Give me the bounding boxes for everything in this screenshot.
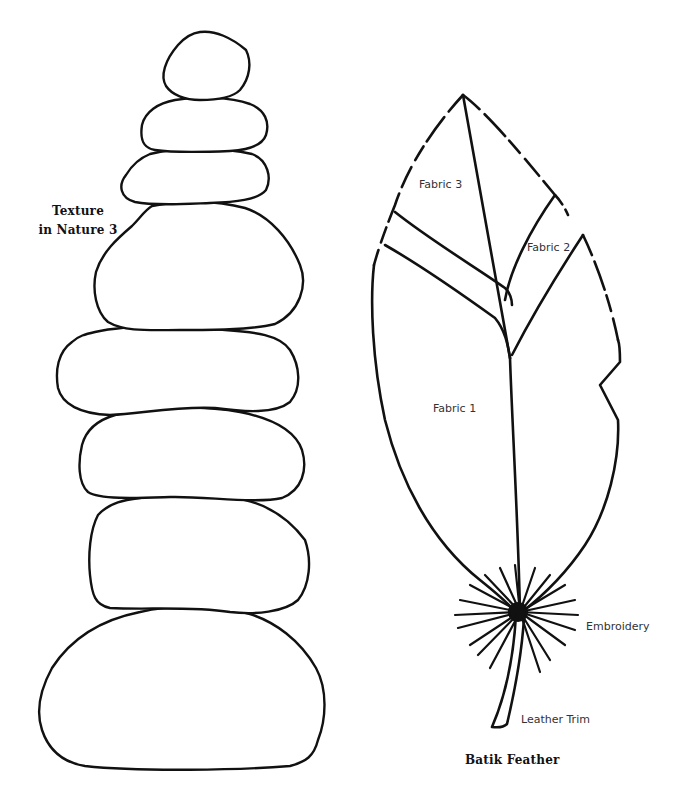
- feather-outline-right: [522, 340, 620, 612]
- feather-title: Batik Feather: [465, 751, 565, 770]
- stones-title-line-2: in Nature 3: [28, 221, 128, 240]
- label-fabric-1: Fabric 1: [433, 402, 476, 415]
- fabric-3-divider-upper: [395, 212, 512, 305]
- feather-outline-right-upper: [583, 235, 618, 340]
- batik-feather-drawing: [0, 0, 680, 811]
- label-leather-trim: Leather Trim: [521, 713, 590, 726]
- label-embroidery: Embroidery: [586, 620, 650, 633]
- stones-title-line-1: Texture: [28, 202, 128, 221]
- leather-trim-quill: [492, 615, 524, 727]
- fabric-3-divider-lower: [385, 245, 510, 358]
- pattern-sheet: Texture in Nature 3 Batik Feather Fabric…: [0, 0, 680, 811]
- label-fabric-3: Fabric 3: [419, 178, 462, 191]
- label-fabric-2: Fabric 2: [527, 241, 570, 254]
- stones-title: Texture in Nature 3: [28, 202, 128, 240]
